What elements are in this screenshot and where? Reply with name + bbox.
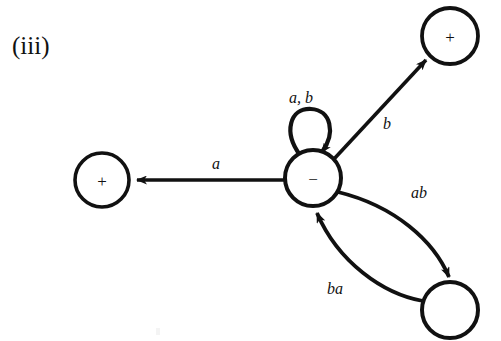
figure-label: (iii) (12, 33, 50, 58)
transition-label-ab: ab (411, 185, 427, 201)
transition-label-self-loop: a, b (289, 90, 313, 106)
state-symbol-left-accept: + (97, 173, 107, 190)
transition-label-ba: ba (327, 281, 343, 297)
state-diagram-canvas (0, 0, 501, 341)
transition-edge-center-to-top (334, 60, 426, 159)
transition-label-b: b (383, 116, 391, 132)
state-node-bottom-plain[interactable] (422, 282, 478, 338)
transition-label-a: a (212, 156, 220, 172)
figure-container: (iii) + − + a b a, b ab ba (0, 0, 501, 341)
transition-edge-self-loop (290, 109, 329, 155)
state-symbol-center-reject: − (308, 171, 318, 188)
state-symbol-top-accept: + (445, 29, 455, 46)
scan-artifact-speck (156, 328, 160, 335)
